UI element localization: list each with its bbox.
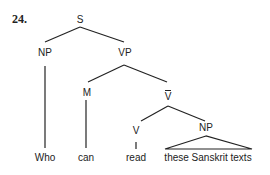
tree-branches xyxy=(0,0,270,175)
leaf-can: can xyxy=(78,153,94,163)
leaf-read: read xyxy=(126,153,146,163)
node-np-object: NP xyxy=(199,123,213,133)
node-vp: VP xyxy=(118,48,131,58)
node-s: S xyxy=(77,15,84,25)
node-m: M xyxy=(83,88,91,98)
node-v: V xyxy=(133,126,140,136)
node-v-bar: V xyxy=(165,92,172,102)
leaf-these-sanskrit-texts: these Sanskrit texts xyxy=(164,153,251,163)
leaf-who: Who xyxy=(35,153,56,163)
node-np-subject: NP xyxy=(38,48,52,58)
